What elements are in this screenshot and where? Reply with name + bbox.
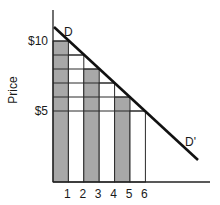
xtick-3: 3	[95, 187, 102, 201]
ytick-10: $10	[28, 34, 48, 48]
bar-3	[84, 69, 99, 182]
xtick-5: 5	[126, 187, 133, 201]
x-tick-labels: 123456	[64, 187, 148, 201]
xtick-6: 6	[141, 187, 148, 201]
bar-6	[130, 111, 145, 182]
ytick-5: $5	[35, 104, 49, 118]
demand-step-chart: D D' $10 $5 Price 123456	[0, 0, 220, 205]
demand-label-d-prime: D'	[185, 135, 196, 149]
y-axis-label: Price	[6, 76, 20, 104]
xtick-2: 2	[79, 187, 86, 201]
bar-2	[68, 55, 83, 182]
bar-5	[115, 97, 130, 182]
xtick-1: 1	[64, 187, 71, 201]
bar-4	[99, 83, 114, 182]
xtick-4: 4	[110, 187, 117, 201]
demand-label-d: D	[64, 25, 73, 39]
